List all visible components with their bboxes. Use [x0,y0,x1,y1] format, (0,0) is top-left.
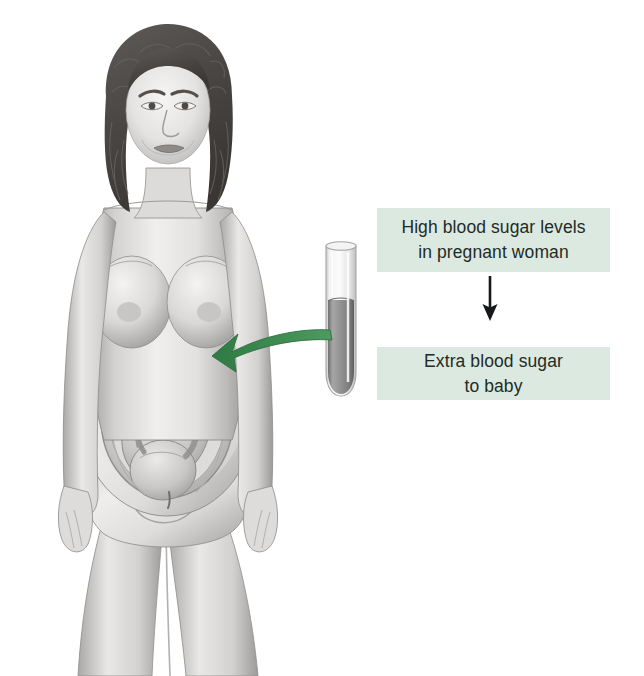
face [126,48,210,164]
left-hand [58,486,92,552]
test-tube-liquid [328,300,354,394]
high-blood-sugar-step: High blood sugar levels in pregnant woma… [377,208,610,272]
pregnant-woman-cutaway-illustration [0,0,370,676]
test-tube-rim [326,242,356,250]
extra-blood-sugar-step: Extra blood sugar to baby [377,347,610,400]
illustration-page: High blood sugar levels in pregnant woma… [0,0,644,676]
blood-sample-test-tube [326,242,356,396]
right-hand [244,486,278,552]
areola-left [117,302,141,322]
downward-flow-arrow [462,274,518,324]
areola-right [197,302,221,322]
illustration-svg [0,0,370,676]
